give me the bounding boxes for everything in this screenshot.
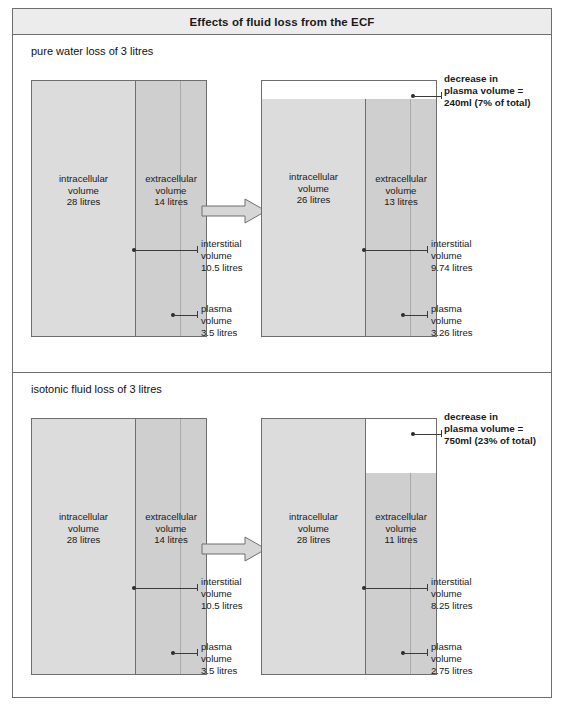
leader-tick-interstitial-after (427, 246, 428, 253)
label-extracellular: extracellular volume 11 litres (366, 511, 436, 546)
leader-tick-plasma-decrease (441, 92, 442, 99)
leader-tick-plasma-before (197, 649, 198, 656)
transition-arrow-pure-water-loss (201, 198, 267, 224)
leader-line-interstitial-before (134, 588, 197, 589)
callout-interstitial-before: interstitial volume 10.5 litres (201, 238, 243, 273)
leader-tick-interstitial-before (197, 246, 198, 253)
column-interstitial (366, 473, 411, 674)
label-intracellular: intracellular volume 28 litres (32, 173, 135, 208)
leader-tick-interstitial-before (197, 584, 198, 591)
column-plasma (411, 99, 436, 336)
leader-tick-plasma-after (427, 311, 428, 318)
transition-arrow-isotonic-fluid-loss (201, 536, 267, 562)
label-extracellular: extracellular volume 13 litres (366, 173, 436, 208)
label-intracellular: intracellular volume 26 litres (262, 171, 365, 206)
callout-plasma-decrease: decrease in plasma volume = 750ml (23% o… (444, 411, 536, 448)
panel-caption-pure-water-loss: pure water loss of 3 litres (31, 45, 153, 57)
panel-isotonic-fluid-loss: isotonic fluid loss of 3 litres intracel… (13, 372, 551, 698)
callout-plasma-after: plasma volume 3.26 litres (431, 303, 473, 338)
after-box-isotonic-fluid-loss: intracellular volume 28 litres extracell… (261, 418, 437, 675)
callout-interstitial-after: interstitial volume 8.25 litres (431, 576, 473, 611)
leader-line-interstitial-after (364, 250, 427, 251)
callout-plasma-before: plasma volume 3.5 litres (201, 303, 237, 338)
callout-plasma-decrease: decrease in plasma volume = 240ml (7% of… (444, 73, 531, 110)
callout-interstitial-after: interstitial volume 9.74 litres (431, 238, 473, 273)
callout-plasma-before: plasma volume 3.5 litres (201, 641, 237, 676)
leader-tick-plasma-after (427, 649, 428, 656)
callout-plasma-after: plasma volume 2.75 litres (431, 641, 473, 676)
before-box-pure-water-loss: intracellular volume 28 litres extracell… (31, 80, 207, 337)
panel-caption-isotonic-fluid-loss: isotonic fluid loss of 3 litres (31, 383, 162, 395)
label-intracellular: intracellular volume 28 litres (262, 511, 365, 546)
column-interstitial (136, 419, 181, 674)
leader-tick-interstitial-after (427, 584, 428, 591)
leader-line-plasma-after (403, 653, 427, 654)
leader-line-plasma-before (173, 315, 197, 316)
leader-tick-plasma-before (197, 311, 198, 318)
label-extracellular: extracellular volume 14 litres (136, 511, 206, 546)
column-intracellular: intracellular volume 28 litres (262, 419, 366, 674)
leader-line-interstitial-after (364, 588, 427, 589)
column-intracellular: intracellular volume 26 litres (262, 99, 366, 336)
leader-line-plasma-before (173, 653, 197, 654)
callout-interstitial-before: interstitial volume 10.5 litres (201, 576, 243, 611)
figure-title: Effects of fluid loss from the ECF (190, 16, 375, 28)
column-interstitial (366, 99, 411, 336)
leader-line-plasma-decrease (413, 434, 441, 435)
figure-container: Effects of fluid loss from the ECF pure … (12, 8, 552, 698)
figure-title-bar: Effects of fluid loss from the ECF (13, 9, 551, 35)
column-intracellular: intracellular volume 28 litres (32, 419, 136, 674)
label-extracellular: extracellular volume 14 litres (136, 173, 206, 208)
label-intracellular: intracellular volume 28 litres (32, 511, 135, 546)
column-interstitial (136, 81, 181, 336)
leader-line-plasma-decrease (413, 96, 441, 97)
leader-tick-plasma-decrease (441, 430, 442, 437)
panel-pure-water-loss: pure water loss of 3 litres intracellula… (13, 35, 551, 372)
leader-line-interstitial-before (134, 250, 197, 251)
after-box-pure-water-loss: intracellular volume 26 litres extracell… (261, 80, 437, 337)
leader-line-plasma-after (403, 315, 427, 316)
column-intracellular: intracellular volume 28 litres (32, 81, 136, 336)
before-box-isotonic-fluid-loss: intracellular volume 28 litres extracell… (31, 418, 207, 675)
